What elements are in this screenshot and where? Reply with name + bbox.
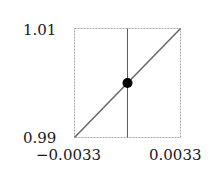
y-tick-bottom: 0.99 — [23, 131, 56, 146]
y-tick-top: 1.01 — [23, 23, 56, 38]
x-tick-right: 0.0033 — [149, 148, 202, 163]
x-tick-left: −0.0033 — [36, 148, 101, 163]
data-point-marker — [123, 78, 133, 88]
